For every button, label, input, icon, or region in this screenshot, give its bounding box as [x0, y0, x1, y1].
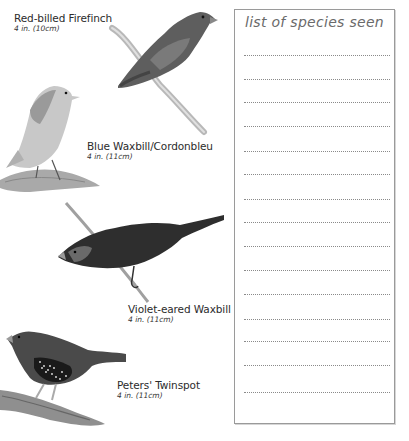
- species-name: Peters' Twinspot: [117, 379, 200, 391]
- species-size: 4 in. (11cm): [128, 315, 231, 325]
- checklist-line[interactable]: [244, 198, 390, 200]
- peters-twinspot-illustration: [0, 331, 126, 425]
- checklist-line[interactable]: [244, 364, 390, 366]
- checklist-line[interactable]: [244, 125, 390, 127]
- checklist-line[interactable]: [244, 269, 390, 271]
- checklist-line[interactable]: [244, 340, 390, 342]
- checklist-line[interactable]: [244, 54, 390, 56]
- species-name: Blue Waxbill/Cordonbleu: [87, 140, 213, 152]
- checklist-line[interactable]: [244, 293, 390, 295]
- checklist-line[interactable]: [244, 245, 390, 247]
- species-size: 4 in. (10cm): [14, 24, 112, 34]
- species-label-peters-twinspot: Peters' Twinspot 4 in. (11cm): [117, 379, 200, 401]
- red-billed-firefinch-illustration: [112, 12, 218, 132]
- species-size: 4 in. (11cm): [87, 152, 213, 162]
- checklist-line[interactable]: [244, 150, 390, 152]
- violet-eared-waxbill-illustration: [58, 203, 224, 302]
- species-size: 4 in. (11cm): [117, 391, 200, 401]
- blue-waxbill-illustration: [0, 86, 100, 192]
- checklist-line[interactable]: [244, 78, 390, 80]
- checklist-line[interactable]: [244, 391, 390, 393]
- species-checklist: list of species seen: [234, 9, 395, 424]
- species-name: Red-billed Firefinch: [14, 12, 112, 24]
- species-name: Violet-eared Waxbill: [128, 303, 231, 315]
- checklist-line[interactable]: [244, 318, 390, 320]
- checklist-line[interactable]: [244, 101, 390, 103]
- species-label-violet-eared-waxbill: Violet-eared Waxbill 4 in. (11cm): [128, 303, 231, 325]
- checklist-line[interactable]: [244, 173, 390, 175]
- checklist-title: list of species seen: [235, 14, 394, 30]
- checklist-line[interactable]: [244, 221, 390, 223]
- species-label-red-billed-firefinch: Red-billed Firefinch 4 in. (10cm): [14, 12, 112, 34]
- species-label-blue-waxbill: Blue Waxbill/Cordonbleu 4 in. (11cm): [87, 140, 213, 162]
